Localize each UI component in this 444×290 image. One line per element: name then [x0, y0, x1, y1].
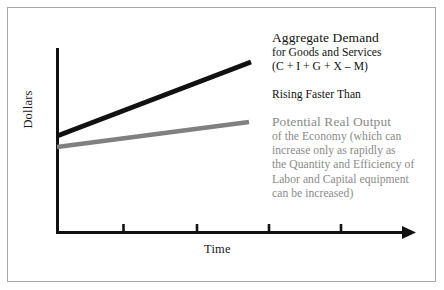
annotation-potential-real-output-line-4: Labor and Capital equipment: [272, 173, 414, 187]
arrow-right-icon: [402, 226, 416, 239]
annotation-aggregate-demand-heading: Aggregate Demand: [272, 29, 382, 46]
annotation-potential-real-output-line-3: the Quantity and Efficiency of: [272, 158, 414, 172]
annotation-potential-real-output-line-1: of the Economy (which can: [272, 130, 414, 144]
x-axis-label: Time: [204, 242, 231, 257]
annotation-potential-real-output: Potential Real Output of the Economy (wh…: [272, 113, 414, 201]
annotation-potential-real-output-heading: Potential Real Output: [272, 113, 414, 130]
annotation-comparison: Rising Faster Than: [272, 88, 361, 102]
annotation-potential-real-output-line-5: can be increased): [272, 187, 414, 201]
annotation-potential-real-output-line-2: increase only as rapidly as: [272, 144, 414, 158]
y-axis-label: Dollars: [21, 80, 36, 140]
annotation-aggregate-demand: Aggregate Demand for Goods and Services …: [272, 29, 382, 74]
annotation-comparison-text: Rising Faster Than: [272, 88, 361, 102]
figure-canvas: Dollars Time Aggregate Demand for Goods …: [0, 0, 444, 290]
annotation-aggregate-demand-line-2: (C + I + G + X – M): [272, 60, 382, 74]
annotation-aggregate-demand-line-1: for Goods and Services: [272, 46, 382, 60]
